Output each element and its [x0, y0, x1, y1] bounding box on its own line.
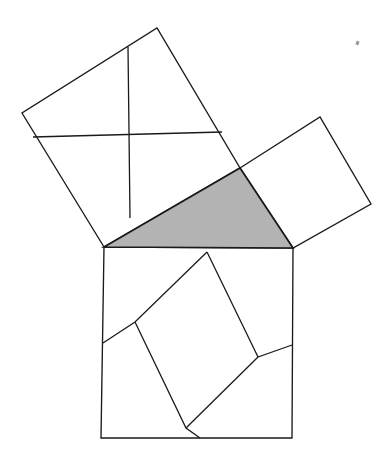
pythagorean-dissection-figure [0, 0, 391, 468]
scan-speck [355, 41, 359, 46]
square-on-hypotenuse [101, 247, 293, 438]
pythagorean-dissection-diagram [0, 0, 391, 468]
